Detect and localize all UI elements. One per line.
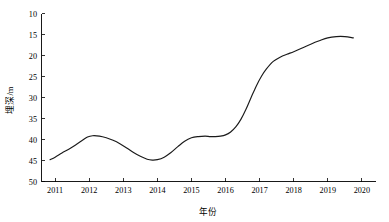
y-tick-label: 30 [29, 94, 37, 103]
x-tick-label: 2012 [81, 186, 97, 195]
x-tick-label: 2020 [354, 186, 370, 195]
y-tick-label: 45 [29, 157, 37, 166]
x-tick-label: 2019 [320, 186, 336, 195]
y-tick-label: 35 [29, 115, 37, 124]
y-tick-label: 10 [29, 10, 37, 19]
y-axis-title: 埋深/m [5, 86, 15, 113]
y-tick-label: 15 [29, 31, 37, 40]
y-tick-label: 20 [29, 52, 37, 61]
y-tick-label: 25 [29, 73, 37, 82]
x-tick-label: 2013 [115, 186, 131, 195]
x-tick-label: 2015 [183, 186, 199, 195]
x-axis-title: 年份 [199, 206, 217, 217]
y-tick-label: 50 [29, 178, 37, 187]
x-tick-label: 2011 [47, 186, 63, 195]
x-tick-label: 2018 [286, 186, 302, 195]
x-tick-label: 2014 [149, 186, 165, 195]
y-axis-tick-labels: 101520253035404550 [29, 10, 37, 187]
line-chart-figure: 101520253035404550 201120122013201420152… [0, 0, 389, 222]
y-tick-label: 40 [29, 136, 37, 145]
chart-canvas: 101520253035404550 201120122013201420152… [0, 0, 389, 222]
x-tick-label: 2017 [251, 186, 267, 195]
x-tick-label: 2016 [217, 186, 233, 195]
